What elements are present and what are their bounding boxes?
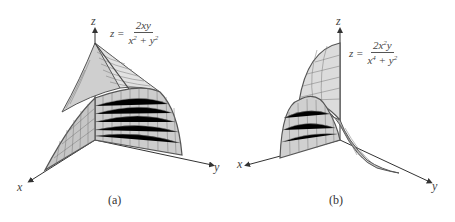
- surface-b-graphic: [227, 0, 455, 222]
- fraction: 2x2y x4 + y2: [367, 39, 397, 66]
- denominator: x2 + y2: [128, 33, 158, 46]
- surface-plot-b: z x y z = 2x2y x4 + y2 (b): [227, 0, 455, 222]
- x-axis-label: x: [237, 157, 242, 172]
- formula-lhs: z =: [110, 27, 124, 39]
- x-axis-label: x: [17, 180, 22, 195]
- z-axis-label: z: [91, 14, 96, 29]
- y-axis-label: y: [214, 160, 219, 175]
- numerator: 2xy: [134, 19, 153, 33]
- y-axis-label: y: [432, 179, 437, 194]
- surface-plot-a: z y x z = 2xy x2 + y2 (a): [0, 0, 228, 222]
- numerator: 2x2y: [371, 39, 394, 53]
- formula-lhs: z =: [349, 47, 363, 59]
- caption-b: (b): [329, 193, 343, 208]
- caption-a: (a): [108, 193, 121, 208]
- fraction: 2xy x2 + y2: [128, 19, 158, 46]
- denominator: x4 + y2: [367, 53, 397, 66]
- formula-a: z = 2xy x2 + y2: [110, 19, 158, 46]
- formula-b: z = 2x2y x4 + y2: [349, 39, 397, 66]
- z-axis-label: z: [336, 14, 341, 29]
